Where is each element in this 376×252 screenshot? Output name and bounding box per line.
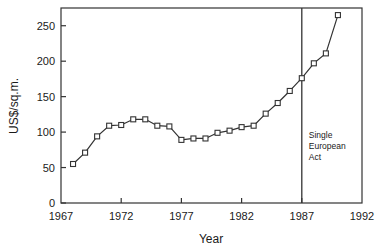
data-point-marker [155, 123, 160, 128]
data-point-marker [119, 123, 124, 128]
plot-frame [61, 8, 362, 203]
single-european-act-text-line: European [309, 141, 346, 151]
y-tick-label: 50 [43, 162, 55, 174]
data-point-marker [251, 123, 256, 128]
data-point-marker [311, 61, 316, 66]
data-point-marker [323, 51, 328, 56]
x-tick-label: 1977 [169, 210, 193, 222]
x-tick-label: 1972 [109, 210, 133, 222]
data-point-marker [239, 125, 244, 130]
x-axis-title: Year [199, 232, 223, 246]
data-point-marker [203, 136, 208, 141]
data-point-marker [263, 111, 268, 116]
data-point-marker [167, 124, 172, 129]
data-point-marker [299, 76, 304, 81]
y-tick-label: 150 [37, 91, 55, 103]
single-european-act-text-line: Act [309, 152, 322, 162]
data-point-marker [95, 134, 100, 139]
x-axis-tick-labels: 196719721977198219871992 [49, 210, 374, 222]
data-point-marker [71, 162, 76, 167]
data-point-marker [107, 123, 112, 128]
x-tick-label: 1982 [229, 210, 253, 222]
single-european-act-text-line: Single [309, 130, 333, 140]
data-point-marker [335, 13, 340, 18]
data-point-marker [287, 88, 292, 93]
y-axis-tick-labels: 050100150200250 [37, 20, 55, 209]
data-point-marker [275, 101, 280, 106]
line-chart: 050100150200250 196719721977198219871992… [0, 0, 376, 252]
y-axis-ticks [61, 26, 66, 203]
y-tick-label: 100 [37, 126, 55, 138]
data-point-marker [215, 130, 220, 135]
data-point-marker [179, 137, 184, 142]
y-tick-label: 250 [37, 20, 55, 32]
x-tick-label: 1992 [350, 210, 374, 222]
data-point-marker [143, 117, 148, 122]
data-point-marker [131, 117, 136, 122]
data-point-markers [71, 13, 341, 167]
x-tick-label: 1967 [49, 210, 73, 222]
x-axis-ticks [121, 198, 302, 203]
annotation-label: SingleEuropeanAct [309, 130, 346, 162]
y-tick-label: 0 [49, 197, 55, 209]
data-series-line [73, 15, 338, 164]
y-tick-label: 200 [37, 55, 55, 67]
data-point-marker [83, 150, 88, 155]
data-point-marker [191, 136, 196, 141]
chart-container: 050100150200250 196719721977198219871992… [0, 0, 376, 252]
x-tick-label: 1987 [290, 210, 314, 222]
data-point-marker [227, 128, 232, 133]
y-axis-title: US$/sq.m. [7, 78, 21, 134]
